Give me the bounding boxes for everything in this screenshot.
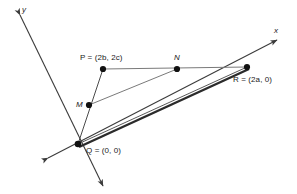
- y-axis-label: y: [22, 6, 26, 14]
- point-label-n: N: [174, 54, 180, 62]
- point-label-m: M: [76, 101, 83, 109]
- point-n: [174, 66, 180, 72]
- diagram-canvas: [0, 0, 297, 194]
- y-axis: [20, 15, 103, 186]
- point-label-q: Q = (0, 0): [86, 147, 121, 155]
- point-label-r: R = (2a, 0): [233, 76, 272, 84]
- segment-qr-thick: [79, 69, 249, 147]
- point-r: [244, 64, 250, 70]
- geometry-diagram: x y P = (2b, 2c) N R = (2a, 0) M Q = (0,…: [0, 0, 297, 194]
- point-label-p: P = (2b, 2c): [80, 54, 123, 62]
- point-p: [100, 66, 106, 72]
- point-m: [86, 102, 92, 108]
- segment-mn: [89, 69, 177, 105]
- point-q: [75, 141, 82, 148]
- x-axis-label: x: [274, 27, 278, 35]
- segment-qr-thin: [78, 67, 247, 144]
